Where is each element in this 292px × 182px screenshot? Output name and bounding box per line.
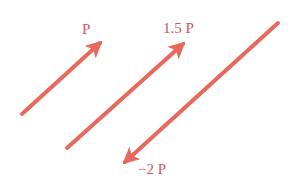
vector-1-5p-label: 1.5 P bbox=[163, 21, 194, 36]
vector-neg-2p-arrow bbox=[125, 23, 278, 162]
vector-neg-2p-label: −2 P bbox=[138, 162, 166, 177]
vector-p-arrow bbox=[22, 43, 100, 114]
vector-p-label: P bbox=[82, 22, 90, 37]
vector-diagram: P 1.5 P −2 P bbox=[0, 0, 292, 182]
vector-canvas bbox=[0, 0, 292, 182]
